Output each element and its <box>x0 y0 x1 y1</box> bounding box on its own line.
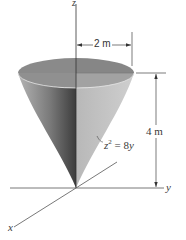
equation-rhs: = 8 <box>112 139 129 151</box>
height-dimension-label: 4 m <box>146 125 163 138</box>
top-surface-right-back <box>76 58 134 73</box>
equation-label: z2 = 8y <box>104 139 134 151</box>
equation-rhs-var: y <box>129 139 134 151</box>
z-axis-label: z <box>72 0 76 8</box>
x-axis-label: x <box>8 222 13 233</box>
left-face <box>18 73 76 188</box>
top-surface-left-back <box>18 58 76 73</box>
x-axis <box>14 188 76 227</box>
right-face <box>76 73 134 188</box>
y-axis-label: y <box>166 182 171 193</box>
paraboloid-figure: z y x 2 m 4 m z2 = 8y <box>0 0 186 240</box>
radius-dimension-label: 2 m <box>93 39 112 49</box>
diagram-canvas <box>0 0 186 240</box>
